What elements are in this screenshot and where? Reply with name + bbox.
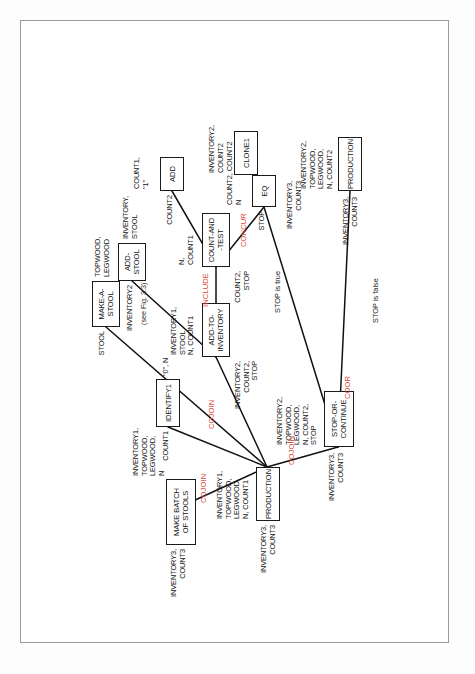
label-add-output: COUNT1, "1" xyxy=(133,143,150,189)
operator-concur: CONCUR xyxy=(240,213,249,247)
label-count-and-test-input: COUNT2, STOP xyxy=(234,271,251,327)
operator-cojoin-1: COJOIN xyxy=(200,474,209,503)
label-production-bottom-output: INVENTORY2, TOPWOOD, LEGWOOD, N, COUNT2 xyxy=(300,127,334,189)
connector-lines xyxy=(20,20,449,643)
label-add-to-inventory-output: INVENTORY1, STOOL N, COUNT1 xyxy=(170,297,196,355)
label-production-bottom-input: INVENTORY3, COUNT3 xyxy=(342,197,359,269)
operator-include: INCLUDE xyxy=(202,273,211,307)
node-add-stool[interactable]: ADD- STOOL xyxy=(118,243,146,281)
label-eq-output: COUNT2, COUNT2 N xyxy=(226,131,243,205)
label-clone1-output: INVENTORY2, COUNT2 xyxy=(208,115,225,173)
rotated-diagram-viewport: MAKE BATCH OF STOOLS IDENTIFY1 PRODUCTIO… xyxy=(20,20,449,643)
node-production-bottom[interactable]: PRODUCTION xyxy=(338,137,362,191)
figure-page: MAKE BATCH OF STOOLS IDENTIFY1 PRODUCTIO… xyxy=(0,0,475,674)
operator-cojoin-2: COJOIN xyxy=(208,400,217,429)
node-add-to-inventory[interactable]: ADD-TO- INVENTORY xyxy=(202,303,230,357)
label-add-stool-input: INVENTORY2 xyxy=(126,285,135,353)
label-stop-or-continue-input: INVENTORY3, COUNT3 xyxy=(328,453,345,525)
label-make-batch-input: INVENTORY3, COUNT3 xyxy=(170,549,187,621)
node-stop-or-continue[interactable]: STOP-OR- CONTINUE xyxy=(324,391,354,447)
node-make-batch-of-stools[interactable]: MAKE BATCH OF STOOLS xyxy=(166,479,196,545)
label-identify1-input: COUNT1 xyxy=(162,431,171,475)
label-add-input: COUNT2 xyxy=(166,195,175,239)
note-see-figure: (see Fig. 3.3) xyxy=(140,283,148,325)
condition-stop-is-true: STOP is true xyxy=(274,271,283,313)
operator-coor: COOR xyxy=(344,376,353,399)
label-make-a-stool-input: STOOL xyxy=(98,331,107,379)
node-eq[interactable]: EQ xyxy=(252,175,276,207)
operator-cojoin-3: COJOIN xyxy=(288,436,297,465)
label-production-top-input: INVENTORY3, COUNT3 xyxy=(260,525,277,597)
label-clone1-input: INVENTORY3, COUNT3 xyxy=(286,181,303,251)
label-eq-input: STOP xyxy=(258,211,267,251)
label-stop-or-continue-output: INVENTORY2, TOPWOOD, LEGWOOD, N, COUNT2,… xyxy=(276,379,319,445)
condition-stop-is-false: STOP is false xyxy=(372,278,381,323)
node-make-a-stool[interactable]: MAKE-A- STOOL xyxy=(92,281,120,327)
label-count-and-test-output: N, COUNT1 xyxy=(178,219,195,265)
label-production-top-output: INVENTORY1, TOPWOOD, LEGWOOD, N, COUNT1 xyxy=(216,457,250,519)
label-add-stool-output: INVENTORY, STOOL xyxy=(122,183,139,239)
node-add[interactable]: ADD xyxy=(160,157,184,191)
label-make-a-stool-output: TOPWOOD, LEGWOOD xyxy=(94,221,111,277)
node-count-and-test[interactable]: COUNT-AND -TEST xyxy=(202,213,230,267)
node-production-top[interactable]: PRODUCTION xyxy=(256,467,280,521)
diagram-canvas: MAKE BATCH OF STOOLS IDENTIFY1 PRODUCTIO… xyxy=(20,20,449,643)
label-add-to-inventory-input: INVENTORY2, COUNT2, STOP xyxy=(234,361,260,429)
